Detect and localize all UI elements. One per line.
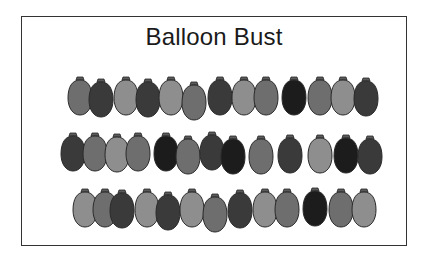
balloon[interactable] [333,132,359,168]
balloon[interactable] [274,186,300,222]
balloon[interactable] [353,75,379,111]
balloon[interactable] [277,132,303,168]
balloon[interactable] [281,74,307,110]
balloon[interactable] [181,79,207,115]
balloon[interactable] [207,74,233,110]
balloon[interactable] [253,74,279,110]
game-title: Balloon Bust [22,23,406,51]
balloon[interactable] [125,130,151,166]
balloon[interactable] [227,187,253,223]
balloon[interactable] [351,186,377,222]
balloon[interactable] [88,76,114,112]
balloon[interactable] [109,187,135,223]
balloon[interactable] [307,132,333,168]
balloon[interactable] [220,133,246,169]
balloon[interactable] [155,189,181,225]
balloon[interactable] [175,133,201,169]
balloon[interactable] [357,133,383,169]
balloon[interactable] [248,133,274,169]
balloon[interactable] [202,191,228,227]
balloon[interactable] [302,185,328,221]
